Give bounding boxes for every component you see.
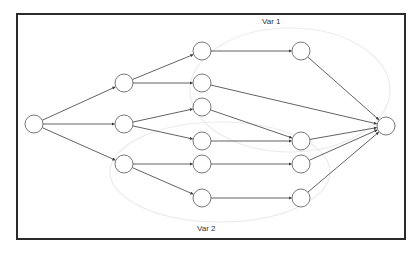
node-C1 bbox=[193, 42, 211, 60]
node-B3 bbox=[115, 155, 133, 173]
edge-C2-E bbox=[211, 85, 377, 124]
node-C6 bbox=[193, 189, 211, 207]
group-label-var1: Var 1 bbox=[262, 17, 281, 26]
edges bbox=[42, 51, 379, 198]
edge-D2-E bbox=[310, 128, 377, 140]
node-D2 bbox=[292, 132, 310, 150]
group-outlines bbox=[110, 28, 390, 222]
edge-A-B3 bbox=[42, 128, 115, 160]
node-C3 bbox=[193, 98, 211, 116]
group-label-var2: Var 2 bbox=[197, 224, 216, 233]
node-D4 bbox=[292, 189, 310, 207]
nodes bbox=[25, 42, 395, 207]
edge-B2-C3 bbox=[133, 109, 193, 122]
node-D1 bbox=[292, 42, 310, 60]
edge-A-B1 bbox=[42, 87, 115, 120]
edge-D3-E bbox=[309, 130, 377, 160]
node-E bbox=[377, 117, 395, 135]
edge-D4-E bbox=[308, 132, 379, 192]
node-B2 bbox=[115, 115, 133, 133]
node-A bbox=[25, 115, 43, 133]
node-D3 bbox=[292, 155, 310, 173]
edge-C3-D2 bbox=[211, 110, 293, 138]
node-C5 bbox=[193, 155, 211, 173]
node-B1 bbox=[115, 74, 133, 92]
node-C4 bbox=[193, 132, 211, 150]
edge-B3-C6 bbox=[132, 168, 193, 195]
edge-B1-C1 bbox=[132, 55, 193, 80]
graph-canvas bbox=[0, 0, 415, 253]
node-C2 bbox=[193, 74, 211, 92]
